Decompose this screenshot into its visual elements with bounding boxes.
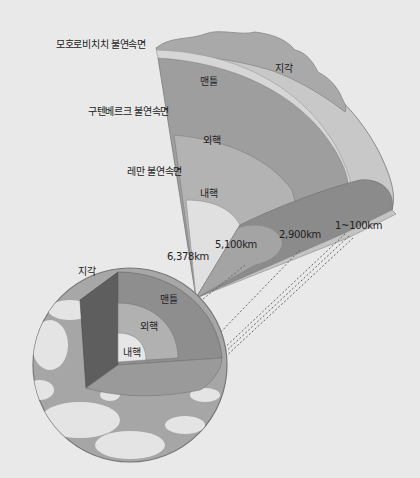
depth-crust-label: 1~100km (335, 221, 382, 231)
depth-core-mantle-label: 2,900km (279, 230, 321, 240)
globe-outer-core-label: 외핵 (140, 322, 157, 332)
wedge-inner-core-label: 내핵 (200, 189, 217, 199)
depth-inner-outer-label: 5,100km (215, 240, 257, 250)
lehmann-boundary-label: 레만 불연속면 (127, 167, 182, 177)
diagram-graphic (0, 0, 420, 478)
globe-inner-core-label: 내핵 (123, 348, 140, 358)
wedge-outer-core-label: 외핵 (203, 136, 220, 146)
earth-structure-diagram: 모호로비치치 불연속면 구텐베르크 불연속면 레만 불연속면 지각 맨틀 외핵 … (0, 0, 420, 478)
globe-crust-label: 지각 (78, 267, 95, 277)
globe (26, 268, 227, 462)
wedge-crust-label: 지각 (275, 64, 292, 74)
moho-boundary-label: 모호로비치치 불연속면 (56, 40, 146, 50)
gutenberg-boundary-label: 구텐베르크 불연속면 (88, 107, 169, 117)
depth-center-label: 6,378km (167, 252, 209, 262)
wedge-mantle-label: 맨틀 (200, 77, 217, 87)
globe-mantle-label: 맨틀 (160, 295, 177, 305)
